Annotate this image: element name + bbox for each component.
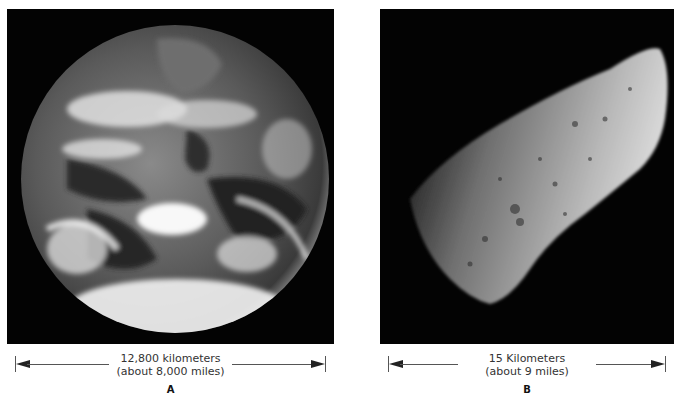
earth-measurement: 12,800 kilometers (about 8,000 miles) (7, 352, 334, 378)
earth-image (7, 9, 334, 344)
asteroid-image (380, 9, 674, 344)
asteroid-scale-caption: 15 Kilometers (about 9 miles) B (380, 348, 674, 398)
figure-label-a: A (7, 384, 334, 395)
earth-scale-caption: 12,800 kilometers (about 8,000 miles) A (7, 348, 334, 398)
figure-label-b: B (380, 384, 674, 395)
asteroid-measurement: 15 Kilometers (about 9 miles) (380, 352, 674, 378)
asteroid-photo-panel (380, 9, 674, 344)
measurement-km: 12,800 kilometers (7, 352, 334, 365)
earth-photo-panel (7, 9, 334, 344)
measurement-km: 15 Kilometers (380, 352, 674, 365)
measurement-miles: (about 8,000 miles) (7, 365, 334, 378)
measurement-miles: (about 9 miles) (380, 365, 674, 378)
